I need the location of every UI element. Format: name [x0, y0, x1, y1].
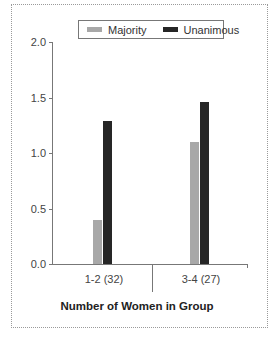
- legend-swatch-unanimous: [163, 27, 178, 32]
- bar-unanimous-3-4: [200, 102, 209, 264]
- y-tick-label-1-0: 1.0: [31, 147, 46, 159]
- bar-majority-3-4: [190, 142, 199, 264]
- y-tick-0-0: [49, 264, 52, 265]
- y-tick-label-2-0: 2.0: [31, 36, 46, 48]
- chart-legend: Majority Unanimous: [78, 20, 224, 39]
- y-tick-label-0-5: 0.5: [31, 203, 46, 215]
- y-tick-label-0-0: 0.0: [31, 258, 46, 270]
- y-tick-label-1-5: 1.5: [31, 92, 46, 104]
- x-category-label-1-2: 1-2 (32): [64, 273, 144, 285]
- legend-item-majority: Majority: [87, 24, 147, 36]
- legend-item-unanimous: Unanimous: [163, 24, 240, 36]
- bar-unanimous-1-2: [103, 121, 112, 264]
- y-tick-0-5: [49, 209, 52, 210]
- x-axis-end-tick: [247, 264, 248, 268]
- x-axis-category-divider: [152, 264, 153, 292]
- y-tick-2-0: [49, 42, 52, 43]
- y-tick-1-0: [49, 153, 52, 154]
- bar-majority-1-2: [93, 220, 102, 264]
- x-axis-line: [52, 264, 248, 265]
- x-category-label-3-4: 3-4 (27): [161, 273, 241, 285]
- legend-label-unanimous: Unanimous: [184, 24, 240, 36]
- x-axis-title: Number of Women in Group: [0, 300, 274, 312]
- y-axis-line: [52, 42, 53, 264]
- legend-label-majority: Majority: [108, 24, 147, 36]
- legend-swatch-majority: [87, 27, 102, 32]
- y-tick-1-5: [49, 98, 52, 99]
